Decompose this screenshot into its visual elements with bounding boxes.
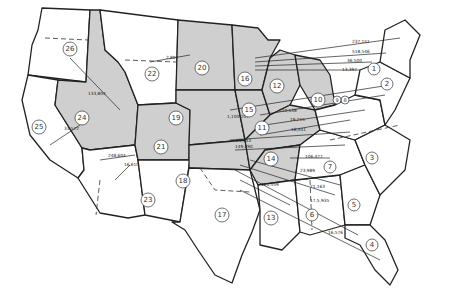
svg-text:3: 3 (370, 154, 374, 162)
region-marker: 19 (169, 111, 183, 125)
region-marker: 14 (264, 152, 278, 166)
region-marker: 16 (238, 72, 252, 86)
flow-label: 19,215 (290, 117, 305, 122)
region-marker: 21 (154, 140, 168, 154)
region-marker: 5 (348, 199, 360, 211)
region-marker: 13 (264, 211, 278, 225)
svg-text:18: 18 (179, 177, 188, 185)
region-marker: 20 (195, 61, 209, 75)
svg-text:17: 17 (218, 211, 227, 219)
svg-text:4: 4 (370, 241, 375, 249)
flow-label: 16,610 (124, 162, 139, 167)
svg-text:11: 11 (258, 124, 267, 132)
flow-label: 16,576 (328, 230, 343, 235)
flow-label: 71,163 (310, 184, 325, 189)
flow-label: 237,151 (352, 39, 370, 44)
svg-text:19: 19 (172, 114, 181, 122)
region-marker: 11 (255, 121, 269, 135)
region-marker: 15 (242, 103, 256, 117)
flow-label: 248,604 (108, 153, 126, 158)
svg-text:22: 22 (148, 70, 157, 78)
flow-label: 17,5,935 (310, 198, 329, 203)
svg-text:16: 16 (241, 75, 250, 83)
svg-text:12: 12 (273, 82, 282, 90)
flow-label: 518,546 (352, 49, 370, 54)
region-marker: 12 (270, 79, 284, 93)
region-marker: 24 (75, 111, 89, 125)
svg-text:24: 24 (78, 114, 87, 122)
flow-label: 18,441 (291, 127, 306, 132)
svg-text:10: 10 (314, 96, 323, 104)
region-marker: 25 (32, 120, 46, 134)
region-marker: 3 (366, 152, 378, 164)
region-marker: 2 (381, 78, 393, 90)
region-marker: 6 (306, 209, 318, 221)
region-marker: 8 (341, 96, 349, 104)
flow-label: 23,443 (236, 138, 251, 143)
region-marker: 1 (368, 63, 380, 75)
svg-text:6: 6 (310, 211, 315, 219)
flow-label: 13,397 (342, 67, 357, 72)
us-flow-map: 237,151 518,546 36,500 13,397 2,807 133,… (0, 0, 451, 298)
svg-text:14: 14 (267, 155, 276, 163)
region-marker: 10 (311, 93, 325, 107)
svg-text:8: 8 (343, 97, 346, 103)
flow-label: 2,807 (166, 55, 179, 60)
flow-label: 133,804 (88, 91, 106, 96)
svg-text:2: 2 (385, 80, 389, 88)
flow-label: 121,559 (261, 182, 279, 187)
flow-label: 149,290 (235, 144, 253, 149)
svg-text:25: 25 (35, 123, 44, 131)
flow-label: 33,572 (64, 126, 79, 131)
region-marker: 26 (63, 42, 77, 56)
flow-label: 210,538 (279, 108, 297, 113)
svg-text:9: 9 (335, 97, 338, 103)
svg-text:26: 26 (66, 45, 75, 53)
svg-text:15: 15 (245, 106, 254, 114)
svg-text:23: 23 (144, 196, 153, 204)
region-marker: 7 (324, 161, 336, 173)
region-marker: 22 (145, 67, 159, 81)
svg-text:20: 20 (198, 64, 207, 72)
svg-text:13: 13 (267, 214, 276, 222)
region-marker: 18 (176, 174, 190, 188)
region-marker: 23 (141, 193, 155, 207)
flow-label: 23,989 (300, 168, 315, 173)
region-marker: 17 (215, 208, 229, 222)
svg-text:21: 21 (157, 143, 166, 151)
svg-text:1: 1 (372, 65, 376, 73)
svg-text:7: 7 (328, 163, 332, 171)
flow-label: 36,500 (347, 58, 362, 63)
svg-text:5: 5 (352, 201, 356, 209)
flow-label: 106,477 (305, 154, 323, 159)
region-marker: 9 (333, 96, 341, 104)
region-marker: 4 (366, 239, 378, 251)
